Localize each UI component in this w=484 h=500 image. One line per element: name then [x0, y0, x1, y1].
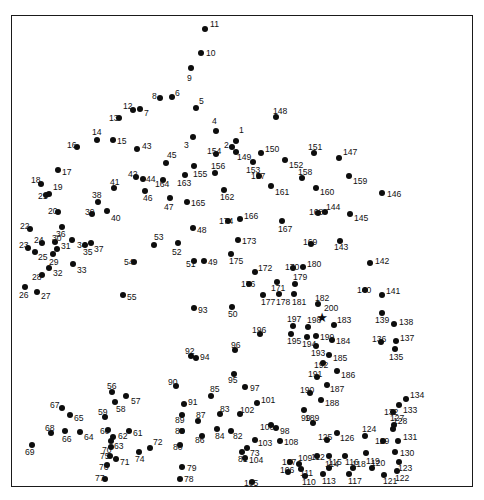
data-point-label: 158	[298, 168, 312, 177]
data-point-label: 13	[109, 114, 119, 123]
data-point-label: 10	[206, 49, 216, 58]
data-point-label: 21	[38, 192, 48, 201]
data-point-label: 141	[386, 287, 400, 296]
data-point-label: 43	[142, 142, 152, 151]
data-point-marker	[233, 138, 239, 144]
data-point-label: 199	[320, 333, 334, 342]
data-point-label: 161	[275, 188, 289, 197]
data-point-label: 170	[285, 263, 299, 272]
data-point-label: 35	[83, 248, 93, 257]
data-point-label: 105	[244, 479, 258, 488]
data-point-label: 159	[353, 177, 367, 186]
data-point-label: 50	[228, 310, 238, 319]
data-point-marker	[242, 455, 248, 461]
data-point-label: 25	[38, 253, 48, 262]
data-point-label: 167	[278, 225, 292, 234]
data-point-label: 46	[143, 194, 153, 203]
data-point-label: 96	[231, 341, 241, 350]
data-point-label: 169	[303, 238, 317, 247]
data-point-marker	[313, 333, 319, 339]
data-point-label: 184	[336, 337, 350, 346]
data-point-label: 47	[164, 203, 174, 212]
data-point-label: 40	[111, 214, 121, 223]
data-point-label: 178	[276, 298, 290, 307]
data-point-label: 95	[228, 376, 238, 385]
data-point-label: 72	[153, 438, 163, 447]
data-point-label: 3	[184, 141, 189, 150]
data-point-label: 58	[116, 405, 126, 414]
data-point-marker	[94, 137, 100, 143]
data-point-label: 126	[340, 434, 354, 443]
data-point-label: 60	[100, 427, 110, 436]
data-point-label: 11	[210, 20, 219, 29]
data-point-label: 4	[212, 117, 217, 126]
data-point-marker	[334, 368, 340, 374]
data-point-label: 33	[77, 266, 87, 275]
data-point-label: 49	[208, 258, 218, 267]
data-point-label: 52	[172, 248, 182, 257]
data-point-label: 186	[341, 371, 355, 380]
data-point-label: 190	[300, 386, 314, 395]
data-point-label: 197	[287, 315, 301, 324]
data-point-label: 192	[314, 361, 328, 370]
data-point-label: 14	[92, 128, 102, 137]
data-point-marker	[191, 305, 197, 311]
data-point-label: 5	[199, 97, 204, 106]
data-point-marker	[179, 464, 185, 470]
data-point-marker	[367, 260, 373, 266]
data-point-label: 38	[92, 191, 102, 200]
data-point-label: 115	[328, 458, 342, 467]
data-point-label: 189	[305, 414, 319, 423]
data-point-label: 92	[185, 347, 195, 356]
data-point-marker	[390, 426, 396, 432]
data-point-label: 140	[357, 286, 371, 295]
data-point-label: 196	[252, 326, 266, 335]
data-point-marker	[268, 183, 274, 189]
data-point-marker	[54, 246, 60, 252]
data-point-label: 174	[219, 217, 233, 226]
data-point-marker	[55, 167, 61, 173]
data-point-label: 194	[302, 340, 316, 349]
data-point-marker	[346, 173, 352, 179]
data-point-marker	[151, 242, 157, 248]
data-point-label: 144	[326, 203, 340, 212]
data-point-label: 130	[400, 449, 414, 458]
data-point-label: 156	[211, 162, 225, 171]
data-point-label: 154	[207, 147, 221, 156]
data-point-marker	[403, 396, 409, 402]
data-point-marker	[379, 190, 385, 196]
data-point-marker	[70, 261, 76, 267]
data-point-label: 6	[175, 89, 180, 98]
data-point-label: 67	[50, 401, 60, 410]
data-point-label: 101	[261, 396, 275, 405]
data-point-label: 122	[395, 474, 409, 483]
data-point-label: 139	[375, 316, 389, 325]
data-point-label: 26	[19, 291, 29, 300]
data-point-marker	[305, 324, 311, 330]
data-point-marker	[392, 449, 398, 455]
data-point-label: 163	[177, 179, 191, 188]
data-point-label: 41	[110, 178, 120, 187]
data-point-label: 129	[375, 437, 389, 446]
data-point-marker	[336, 155, 342, 161]
data-point-label: 88	[175, 427, 185, 436]
data-point-label: 84	[215, 432, 225, 441]
data-point-label: 162	[220, 193, 234, 202]
data-point-marker	[290, 323, 296, 329]
data-point-label: 54	[124, 258, 134, 267]
data-point-label: 71	[120, 458, 130, 467]
data-point-marker	[396, 402, 402, 408]
data-point-label: 120	[371, 459, 385, 468]
data-point-label: 16	[67, 141, 77, 150]
data-point-marker	[46, 265, 52, 271]
data-point-label: 45	[167, 151, 177, 160]
data-point-label: 128	[393, 417, 407, 426]
data-point-label: 107	[282, 458, 296, 467]
data-point-label: 56	[107, 382, 117, 391]
data-point-label: 147	[343, 148, 357, 157]
data-point-label: 103	[258, 439, 272, 448]
data-point-label: 108	[284, 438, 298, 447]
data-point-label: 173	[242, 237, 256, 246]
data-point-label: 53	[154, 233, 164, 242]
data-point-marker	[123, 393, 129, 399]
